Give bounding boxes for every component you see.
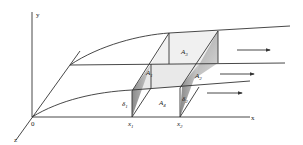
y-axis-label: y	[36, 11, 40, 19]
origin-label: 0	[31, 120, 35, 128]
x1-label: x1	[127, 120, 134, 129]
x2-label: x2	[176, 120, 183, 129]
control-volume	[132, 31, 218, 117]
delta1-label: δ1	[122, 100, 128, 109]
z-axis-label: z	[14, 136, 17, 144]
flow-control-volume-diagram: y x z 0 x1 x2 δ1 δ2 A1 A2 A3 A4	[0, 0, 303, 145]
x-axis-label: x	[251, 114, 255, 122]
labels: y x z 0 x1 x2 δ1 δ2 A1 A2 A3 A4	[14, 11, 255, 144]
